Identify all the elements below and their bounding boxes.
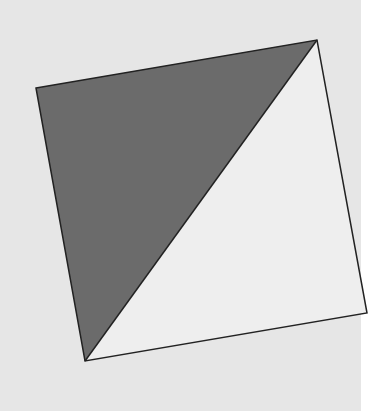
square-diagram: [0, 0, 385, 411]
